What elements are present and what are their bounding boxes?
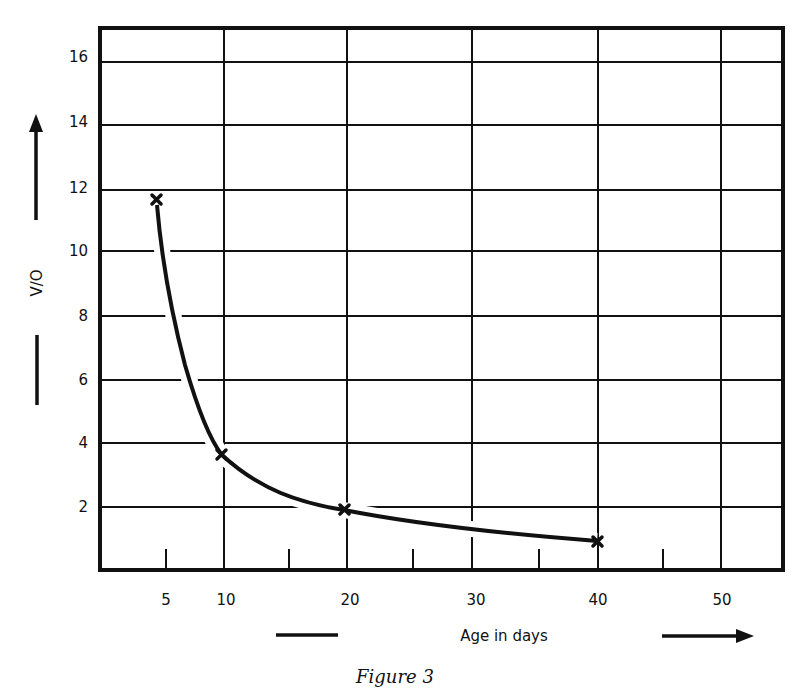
data-markers [152,195,602,546]
chart: 2 4 6 8 10 12 14 16 5 10 20 30 40 50 V/O… [0,0,809,693]
y-tick-label: 12 [69,179,88,197]
y-tick-label: 8 [78,307,88,325]
y-tick-label: 4 [78,434,88,452]
y-axis-title-group: V/O [28,114,46,405]
figure-caption: Figure 3 [355,666,434,687]
y-tick-label: 2 [78,498,88,516]
x-tick-labels: 5 10 20 30 40 50 [161,591,731,609]
vertical-gridlines [224,28,721,570]
marker-point-1 [152,195,161,204]
x-tick-label: 50 [712,591,731,609]
up-arrow-head-icon [29,114,43,132]
y-tick-label: 6 [78,371,88,389]
x-tick-label: 30 [466,591,485,609]
minor-ticks [166,549,663,570]
y-tick-labels: 2 4 6 8 10 12 14 16 [69,48,88,516]
x-tick-label: 5 [161,591,171,609]
horizontal-gridlines [100,62,783,507]
x-tick-label: 40 [588,591,607,609]
x-axis-title: Age in days [460,627,548,645]
y-tick-label: 10 [69,242,88,260]
y-tick-label: 14 [69,113,88,131]
right-arrow-head-icon [736,629,754,643]
x-tick-label: 10 [216,591,235,609]
y-tick-label: 16 [69,48,88,66]
plot-frame [100,28,783,570]
x-tick-label: 20 [340,591,359,609]
y-axis-title: V/O [28,269,46,296]
x-axis-title-group: Age in days [276,627,754,645]
